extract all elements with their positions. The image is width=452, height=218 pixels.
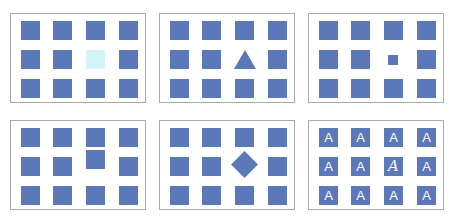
square — [53, 128, 72, 147]
square — [351, 50, 370, 69]
letter-a: A — [417, 186, 436, 205]
square — [319, 50, 338, 69]
square — [86, 21, 105, 40]
square — [119, 79, 138, 98]
letter-square: A — [351, 128, 370, 147]
square — [170, 157, 189, 176]
square — [170, 186, 189, 205]
square — [53, 157, 72, 176]
square — [235, 128, 254, 147]
square — [119, 21, 138, 40]
square — [319, 21, 338, 40]
letter-a-italic: A — [384, 157, 403, 176]
square — [119, 157, 138, 176]
panel-color — [10, 13, 146, 103]
letter-square: A — [417, 128, 436, 147]
square — [86, 186, 105, 205]
square — [21, 186, 40, 205]
square — [384, 21, 403, 40]
square — [202, 157, 221, 176]
square — [417, 79, 436, 98]
square — [170, 50, 189, 69]
square — [86, 79, 105, 98]
letter-square: A — [417, 186, 436, 205]
panel-shape — [159, 13, 295, 103]
letter-a: A — [384, 128, 403, 147]
square — [119, 128, 138, 147]
square — [53, 50, 72, 69]
square — [170, 79, 189, 98]
letter-square: A — [351, 186, 370, 205]
letter-a: A — [351, 128, 370, 147]
square — [268, 157, 287, 176]
square — [235, 79, 254, 98]
square — [351, 21, 370, 40]
square — [268, 50, 287, 69]
square — [21, 79, 40, 98]
square — [351, 79, 370, 98]
odd-italic-letter-square: A — [384, 157, 403, 176]
letter-a: A — [351, 186, 370, 205]
letter-square: A — [319, 128, 338, 147]
odd-small-square — [388, 55, 398, 65]
letter-a: A — [319, 186, 338, 205]
letter-a: A — [417, 157, 436, 176]
panel-typeface: A A A A A A A A A A A A — [308, 120, 444, 210]
letter-a: A — [319, 157, 338, 176]
square — [384, 79, 403, 98]
letter-a: A — [351, 157, 370, 176]
panel-size — [308, 13, 444, 103]
square — [202, 21, 221, 40]
panel-position — [10, 120, 146, 210]
letter-a: A — [384, 186, 403, 205]
square — [119, 186, 138, 205]
square — [417, 50, 436, 69]
square — [53, 186, 72, 205]
square — [202, 79, 221, 98]
square — [21, 21, 40, 40]
square — [268, 128, 287, 147]
square — [235, 21, 254, 40]
panel-orientation — [159, 120, 295, 210]
square — [119, 50, 138, 69]
square — [21, 50, 40, 69]
odd-diamond — [231, 151, 258, 178]
square — [86, 128, 105, 147]
square — [268, 186, 287, 205]
square — [202, 186, 221, 205]
letter-a: A — [319, 128, 338, 147]
square — [202, 50, 221, 69]
square — [53, 21, 72, 40]
square — [21, 157, 40, 176]
letter-square: A — [351, 157, 370, 176]
letter-square: A — [417, 157, 436, 176]
letter-square: A — [384, 186, 403, 205]
odd-pale-square — [86, 50, 105, 69]
letter-square: A — [319, 186, 338, 205]
square — [202, 128, 221, 147]
letter-square: A — [384, 128, 403, 147]
letter-a: A — [417, 128, 436, 147]
square — [319, 79, 338, 98]
square — [235, 186, 254, 205]
odd-offset-square — [86, 150, 105, 169]
square — [417, 21, 436, 40]
square — [21, 128, 40, 147]
square — [170, 128, 189, 147]
odd-triangle — [234, 50, 256, 69]
square — [170, 21, 189, 40]
letter-square: A — [319, 157, 338, 176]
square — [53, 79, 72, 98]
square — [268, 79, 287, 98]
square — [268, 21, 287, 40]
